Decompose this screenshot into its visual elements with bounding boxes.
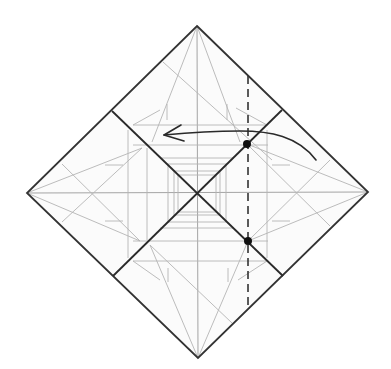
upper-reference-point [243,140,251,148]
lower-reference-point [244,237,252,245]
origami-diagram [0,0,391,369]
